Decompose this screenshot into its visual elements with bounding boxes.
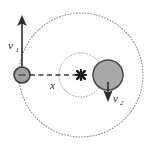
label-v1: v 1	[8, 39, 19, 54]
label-v1-subscript: 1	[16, 46, 20, 54]
label-v2-subscript: 2	[120, 99, 124, 107]
label-v2: v 2	[113, 92, 124, 107]
label-v2-symbol: v	[113, 92, 118, 104]
label-separation-x: x	[49, 79, 55, 91]
label-v1-symbol: v	[8, 39, 13, 51]
center-of-mass-marker	[76, 70, 86, 80]
physics-diagram-canvas: v 1 v 2 x	[0, 0, 149, 145]
diagram-svg: v 1 v 2 x	[0, 0, 149, 145]
